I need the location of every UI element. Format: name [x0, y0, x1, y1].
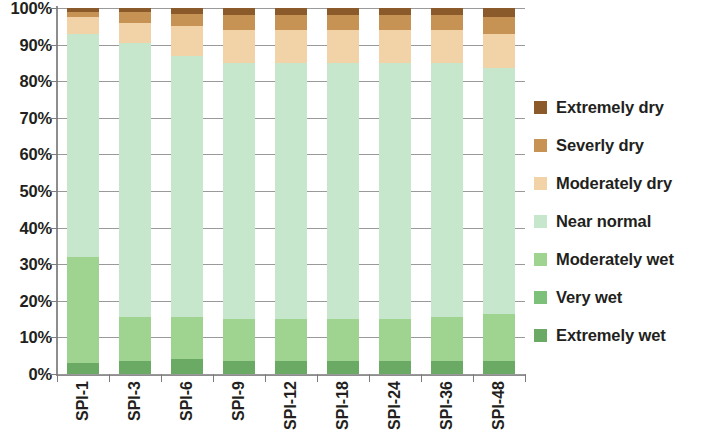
bar-segment	[431, 15, 463, 30]
bar-segment	[431, 317, 463, 361]
bar-segment	[379, 63, 411, 319]
legend-label: Severly dry	[556, 136, 644, 155]
x-axis-tick-label: SPI-24	[386, 381, 404, 430]
y-axis-tick-label: 20%	[4, 293, 52, 310]
bar-segment	[119, 12, 151, 23]
y-axis-tick	[49, 45, 58, 46]
legend-label: Very wet	[556, 288, 622, 307]
bar-segment	[431, 8, 463, 15]
y-axis-tick	[49, 81, 58, 82]
legend-item[interactable]: Severly dry	[534, 126, 710, 164]
bar-segment	[431, 361, 463, 374]
bar-spi-24	[379, 8, 411, 374]
x-axis-tick	[473, 374, 474, 382]
legend-item[interactable]: Moderately dry	[534, 164, 710, 202]
x-axis-tick-label: SPI-1	[74, 381, 92, 421]
legend-swatch-icon	[534, 215, 547, 228]
bar-segment	[327, 30, 359, 63]
bar-spi-3	[119, 8, 151, 374]
bar-segment	[483, 68, 515, 313]
y-axis-tick-label: 100%	[4, 0, 52, 17]
bar-segment	[275, 30, 307, 63]
x-axis-tick	[525, 374, 526, 382]
bar-spi-48	[483, 8, 515, 374]
bar-segment	[223, 63, 255, 319]
legend-label: Near normal	[556, 212, 651, 231]
legend-label: Moderately wet	[556, 250, 674, 269]
bar-segment	[119, 317, 151, 361]
legend-item[interactable]: Extremely wet	[534, 316, 710, 354]
bar-segment	[379, 15, 411, 30]
bar-segment	[327, 8, 359, 15]
bar-spi-12	[275, 8, 307, 374]
bar-segment	[483, 314, 515, 362]
bar-segment	[171, 26, 203, 55]
legend-swatch-icon	[534, 253, 547, 266]
bar-spi-6	[171, 8, 203, 374]
x-axis-tick	[161, 374, 162, 382]
bar-segment	[483, 17, 515, 33]
y-axis-labels: 100%90%80%70%60%50%40%30%20%10%0%	[0, 0, 52, 441]
bar-spi-1	[67, 8, 99, 374]
bar-segment	[275, 15, 307, 30]
bar-segment	[327, 319, 359, 361]
y-axis-tick-label: 0%	[4, 366, 52, 383]
bar-segment	[67, 34, 99, 257]
bar-segment	[223, 361, 255, 374]
y-axis-tick-label: 70%	[4, 110, 52, 127]
legend-item[interactable]: Extremely dry	[534, 88, 710, 126]
y-axis-tick-label: 80%	[4, 73, 52, 90]
bar-segment	[275, 319, 307, 361]
x-axis-tick-label: SPI-9	[230, 381, 248, 421]
legend-label: Extremely wet	[556, 326, 666, 345]
bar-segment	[119, 23, 151, 43]
y-axis-tick-label: 10%	[4, 329, 52, 346]
bar-segment	[327, 361, 359, 374]
bar-segment	[431, 30, 463, 63]
bar-segment	[171, 56, 203, 318]
y-axis-tick	[49, 118, 58, 119]
bar-segment	[483, 8, 515, 17]
legend-item[interactable]: Near normal	[534, 202, 710, 240]
bar-segment	[223, 15, 255, 30]
bar-segment	[483, 361, 515, 374]
legend-item[interactable]: Moderately wet	[534, 240, 710, 278]
bar-segment	[171, 317, 203, 359]
bar-segment	[67, 363, 99, 374]
x-axis-tick	[317, 374, 318, 382]
bar-segment	[275, 63, 307, 319]
bar-segment	[119, 361, 151, 374]
bar-segment	[327, 63, 359, 319]
y-axis-tick-label: 90%	[4, 37, 52, 54]
x-axis-tick-label: SPI-12	[282, 381, 300, 430]
bar-segment	[223, 30, 255, 63]
legend-swatch-icon	[534, 177, 547, 190]
plot-area	[57, 8, 525, 374]
legend-item[interactable]: Very wet	[534, 278, 710, 316]
y-axis-tick	[49, 8, 58, 9]
bar-segment	[171, 359, 203, 374]
y-axis-tick	[49, 228, 58, 229]
bar-segment	[67, 17, 99, 33]
y-axis-tick	[49, 337, 58, 338]
x-axis-tick	[369, 374, 370, 382]
bar-segment	[379, 361, 411, 374]
x-axis-tick	[421, 374, 422, 382]
legend-swatch-icon	[534, 291, 547, 304]
legend-label: Extremely dry	[556, 98, 664, 117]
bar-segment	[379, 30, 411, 63]
y-axis-tick	[49, 154, 58, 155]
y-axis-tick-label: 30%	[4, 256, 52, 273]
bar-segment	[379, 8, 411, 15]
x-axis-tick	[57, 374, 58, 382]
y-axis-tick	[49, 264, 58, 265]
x-axis-tick	[265, 374, 266, 382]
chart-legend: Extremely drySeverly dryModerately dryNe…	[534, 88, 710, 354]
bar-segment	[327, 15, 359, 30]
bar-segment	[379, 319, 411, 361]
y-axis-tick	[49, 301, 58, 302]
x-axis-tick-label: SPI-18	[334, 381, 352, 430]
x-axis-tick-label: SPI-48	[490, 381, 508, 430]
x-axis-tick-label: SPI-36	[438, 381, 456, 430]
bar-segment	[431, 63, 463, 317]
